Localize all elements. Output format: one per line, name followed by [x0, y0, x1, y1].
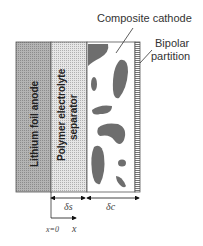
x0-label: x=0: [45, 225, 59, 234]
bipolar-label-1: Bipolar: [155, 37, 190, 49]
composite-cathode-label: Composite cathode: [97, 12, 192, 24]
anode-label: Lithium foil anode: [29, 80, 40, 167]
x-label: x: [71, 223, 77, 234]
separator-label-1: Polymer electrolyte: [56, 68, 67, 161]
delta-c-label: δc: [106, 201, 116, 212]
battery-cell-diagram: Composite cathode Bipolar partition Lith…: [0, 0, 203, 246]
separator-label-2: separator: [68, 94, 79, 140]
delta-s-label: δs: [64, 201, 73, 212]
bipolar-partition: [135, 42, 140, 192]
bipolar-label-2: partition: [151, 50, 190, 62]
